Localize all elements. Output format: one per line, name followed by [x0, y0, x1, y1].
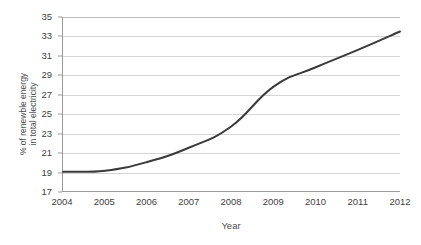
x-tick-label-2007: 2007 [178, 196, 199, 208]
y-tick-label-29: 29 [41, 70, 52, 80]
y-tick-label-23: 23 [41, 129, 52, 139]
y-tick-label-27: 27 [41, 90, 52, 100]
chart-figure: · · · ·· · ·· ·· ·· · ·· · % of renewble… [0, 0, 421, 245]
y-tick-label-31: 31 [41, 51, 52, 61]
x-tick-label-2010: 2010 [305, 196, 326, 208]
cropped-title-remnant: · · · ·· · ·· ·· ·· · ·· · [150, 1, 380, 6]
y-tick-label-33: 33 [41, 31, 52, 41]
y-tick-label-19: 19 [41, 168, 52, 178]
y-tick-label-17: 17 [41, 187, 52, 197]
data-series-line [63, 17, 400, 191]
x-tick-label-2008: 2008 [220, 196, 241, 208]
x-tick-label-2005: 2005 [94, 196, 115, 208]
x-axis-tick-labels: 200420052006200720082009201020112012 [62, 196, 400, 212]
plot-area [62, 17, 400, 192]
y-tick-label-35: 35 [41, 12, 52, 22]
y-tick-label-25: 25 [41, 109, 52, 119]
x-tick-label-2011: 2011 [348, 196, 368, 208]
series-path-renewable-share [63, 32, 400, 172]
x-tick-label-2012: 2012 [389, 196, 410, 208]
x-axis-title: Year [62, 220, 400, 231]
x-tick-label-2004: 2004 [51, 196, 72, 208]
y-axis-tick-labels: 35333129272523211917 [0, 17, 58, 192]
x-tick-label-2006: 2006 [136, 196, 157, 208]
x-tick-label-2009: 2009 [263, 196, 284, 208]
y-tick-label-21: 21 [41, 148, 52, 158]
